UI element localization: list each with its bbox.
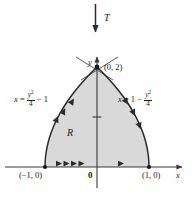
point-dot-cusp [95, 65, 100, 70]
right-eq-denominator: 4 [144, 101, 152, 109]
right-eq-fraction: y2 4 [144, 92, 152, 108]
left-eq-denominator: 4 [27, 101, 35, 109]
origin-label: 0 [88, 170, 93, 180]
point-dot-right-intercept [147, 165, 151, 169]
figure-canvas: T y x 0 (0, 2) (−1, 0) (1, 0) R x = y2 4… [0, 0, 193, 197]
left-intercept-label: (−1, 0) [19, 170, 42, 180]
left-eq-equals: = [20, 94, 25, 104]
region-label: R [67, 127, 73, 138]
left-parabola-equation: x = y2 4 − 1 [14, 92, 48, 108]
right-eq-leading: 1 − [131, 94, 142, 104]
right-eq-lhs: x [118, 94, 122, 104]
t-vector-label: T [104, 12, 110, 23]
y-axis-label: y [88, 57, 92, 67]
left-eq-trailing: − 1 [37, 94, 48, 104]
point-dot-left-intercept [43, 165, 47, 169]
x-axis-label: x [176, 170, 180, 180]
left-eq-lhs: x [14, 94, 18, 104]
left-eq-fraction: y2 4 [27, 92, 35, 108]
cusp-point-label: (0, 2) [104, 62, 122, 72]
right-eq-equals: = [124, 94, 129, 104]
right-parabola-equation: x = 1 − y2 4 [118, 92, 152, 108]
right-intercept-label: (1, 0) [142, 170, 160, 180]
